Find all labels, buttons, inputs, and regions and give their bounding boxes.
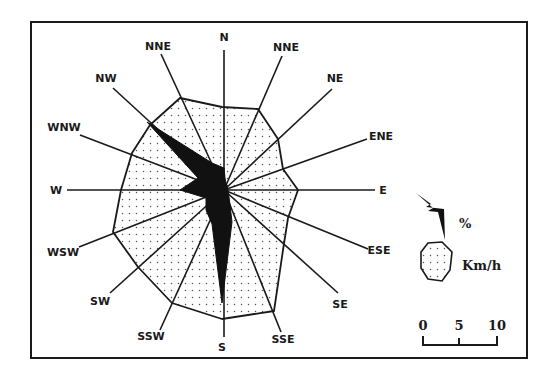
scale-tick-label: 5	[454, 318, 463, 333]
legend-percent-label: %	[459, 216, 472, 231]
direction-label-sse: SSE	[272, 333, 295, 346]
scale-tick-label: 0	[418, 318, 427, 333]
direction-label-nw: NW	[95, 72, 116, 85]
direction-label-ne: NE	[327, 72, 344, 85]
scale-bar: 0 5 10	[418, 318, 506, 345]
direction-label-se: SE	[332, 298, 347, 311]
legend-dotted-polygon-icon	[421, 242, 452, 281]
direction-label-sw: SW	[90, 295, 110, 308]
legend-spike-icon	[416, 193, 445, 240]
direction-label-nne: NNE	[273, 41, 299, 54]
direction-label-wsw: WSW	[47, 246, 79, 259]
scale-tick-label: 10	[488, 318, 506, 333]
direction-label-ssw: SSW	[137, 330, 164, 343]
legend: % Km/h	[416, 193, 502, 281]
direction-label-wnw: WNW	[47, 121, 80, 134]
direction-label-n: N	[219, 31, 228, 44]
scale-bar-line	[423, 336, 497, 345]
direction-label-s: S	[218, 341, 226, 354]
direction-label-nne: NNE	[145, 40, 171, 53]
legend-kmh-label: Km/h	[462, 258, 502, 273]
wind-rose-canvas: NNNENWWNWWWSWSWSSWSSSESEESEEENENENNE % K…	[0, 0, 544, 379]
direction-label-ese: ESE	[368, 244, 391, 257]
direction-label-ene: ENE	[369, 130, 393, 143]
direction-label-e: E	[379, 184, 387, 197]
direction-label-w: W	[50, 184, 62, 197]
wind-rose-figure: NNNENWWNWWWSWSWSSWSSSESEESEEENENENNE % K…	[0, 0, 544, 379]
